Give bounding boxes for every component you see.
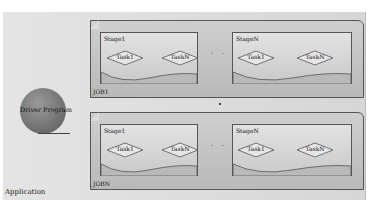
task-node: Task1: [106, 142, 144, 158]
task-label: TaskN: [161, 145, 199, 152]
driver-program-label: Driver Program: [20, 106, 82, 114]
task-node: Task1: [237, 50, 275, 66]
stage-box-n: StageN Task1 TaskN: [232, 124, 352, 176]
stage-box-1: Stage1 Task1 TaskN: [100, 124, 198, 176]
driver-program-node: Driver Program: [20, 88, 66, 134]
job-box-n: Stage1 Task1 TaskN · · StageN Task1 Task…: [90, 112, 364, 190]
application-label: Application: [5, 188, 45, 196]
task-label: Task1: [106, 145, 144, 152]
job-separator-dot: [219, 103, 221, 105]
stage-label: Stage1: [104, 35, 125, 42]
stage-label: StageN: [236, 35, 259, 42]
task-label: Task1: [237, 53, 275, 60]
job-label: JOBN: [93, 180, 110, 187]
task-node: TaskN: [161, 142, 199, 158]
task-label: Task1: [237, 145, 275, 152]
job-box-1: Stage1 Task1 TaskN · · StageN Task1 Task…: [90, 20, 364, 98]
job-label: JOB1: [93, 88, 109, 95]
task-label: TaskN: [296, 145, 334, 152]
driver-connector: [38, 133, 70, 134]
stage-box-n: StageN Task1 TaskN: [232, 32, 352, 84]
stage-label: StageN: [236, 127, 259, 134]
task-node: Task1: [106, 50, 144, 66]
task-label: TaskN: [161, 53, 199, 60]
ellipsis: · ·: [211, 50, 227, 58]
task-node: TaskN: [296, 142, 334, 158]
task-label: Task1: [106, 53, 144, 60]
task-node: Task1: [237, 142, 275, 158]
stage-box-1: Stage1 Task1 TaskN: [100, 32, 198, 84]
task-label: TaskN: [296, 53, 334, 60]
ellipsis: · ·: [211, 142, 227, 150]
stage-label: Stage1: [104, 127, 125, 134]
task-node: TaskN: [296, 50, 334, 66]
task-node: TaskN: [161, 50, 199, 66]
